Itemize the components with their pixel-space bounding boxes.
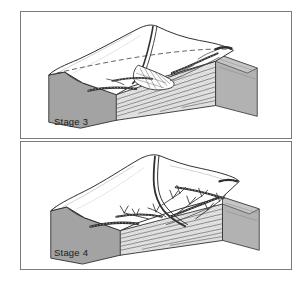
stage-4-caption: Stage 4: [54, 248, 88, 258]
figure-container: Stage 3: [0, 0, 305, 282]
panel-stage-3: Stage 3: [20, 11, 292, 139]
panel-stage-4: Stage 4: [20, 141, 292, 270]
right-side-face: [216, 53, 258, 116]
stage-3-caption: Stage 3: [54, 117, 88, 127]
right-side-face: [223, 197, 260, 250]
